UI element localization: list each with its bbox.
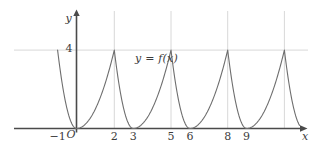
x-tick-label-9: 9 (243, 130, 250, 143)
x-tick-label-3: 3 (130, 130, 137, 143)
origin-label: O (67, 128, 76, 141)
function-graph-figure: y x O y = f(x) 4 −1 2 3 5 6 8 9 (0, 0, 316, 153)
function-annotation: y = f(x) (135, 52, 178, 65)
vertical-gridlines (114, 11, 284, 129)
x-tick-label-neg1: −1 (50, 130, 66, 143)
x-tick-label-2: 2 (111, 130, 118, 143)
x-axis-label: x (302, 130, 308, 143)
x-tick-label-6: 6 (186, 130, 193, 143)
y-tick-label-4: 4 (66, 42, 73, 55)
curve-path (58, 50, 300, 128)
y-axis-arrow-icon (73, 10, 79, 17)
x-tick-label-8: 8 (224, 130, 231, 143)
axes (14, 10, 308, 133)
plot-canvas (0, 0, 316, 153)
y-axis-label: y (66, 12, 72, 25)
function-curve (58, 50, 300, 128)
x-tick-label-5: 5 (168, 130, 175, 143)
